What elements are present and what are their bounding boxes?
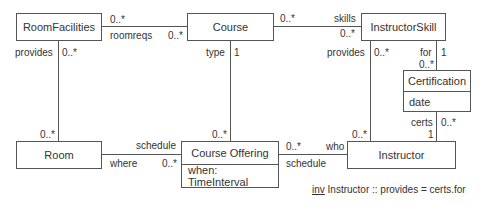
multiplicity-label: 0..* [286,141,301,152]
multiplicity-label: 0..* [110,14,125,25]
class-course: Course [187,13,274,41]
multiplicity-label: 0..* [280,13,295,24]
multiplicity-label: 0..* [212,129,227,140]
role-label: for [420,47,432,58]
invariant-keyword: inv [312,184,325,195]
multiplicity-label: 0..* [441,117,456,128]
role-label: where [110,158,137,169]
class-name: Room [17,142,101,168]
multiplicity-label: 1 [428,129,434,140]
class-name: Course Offering [182,142,278,164]
multiplicity-label: 0..* [62,47,77,58]
role-label: provides [327,47,365,58]
multiplicity-label: 0..* [40,129,55,140]
role-label: roomreqs [110,30,152,41]
role-label: skills [334,13,356,24]
class-attribute: date [404,91,470,111]
role-label: certs [411,117,433,128]
class-room: Room [16,141,102,169]
multiplicity-label: 0..* [162,158,177,169]
multiplicity-label: 0..* [374,47,389,58]
multiplicity-label: 0..* [352,129,367,140]
class-instructor: Instructor [347,141,456,169]
role-label: provides [15,47,53,58]
invariant-expression: Instructor :: provides = certs.for [325,184,466,195]
class-certification: Certification date [403,70,471,112]
class-name: Certification [404,71,470,91]
ocl-invariant: inv Instructor :: provides = certs.for [312,184,466,195]
multiplicity-label: 0..* [419,59,434,70]
class-instructorskill: InstructorSkill [361,13,446,41]
class-attribute: when: TimeInterval [182,164,278,187]
class-courseoffering: Course Offering when: TimeInterval [181,141,279,188]
class-roomfacilities: RoomFacilities [16,13,102,41]
class-name: InstructorSkill [362,14,445,40]
class-name: Instructor [348,142,455,168]
role-label: schedule [136,140,176,151]
multiplicity-label: 0..* [340,28,355,39]
multiplicity-label: 1 [441,47,447,58]
class-name: Course [188,14,273,40]
multiplicity-label: 0..* [168,30,183,41]
class-name: RoomFacilities [17,14,101,40]
role-label: who [326,141,344,152]
role-label: schedule [286,158,326,169]
multiplicity-label: 1 [234,47,240,58]
role-label: type [206,47,225,58]
